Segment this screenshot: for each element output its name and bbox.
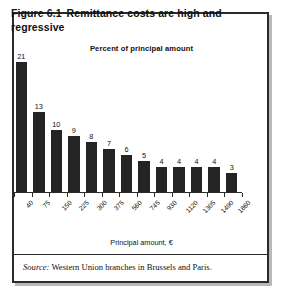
bar-group: 8 xyxy=(84,62,102,192)
bar xyxy=(208,167,220,192)
source-label: Source: xyxy=(23,262,49,272)
x-axis-tick xyxy=(84,193,85,197)
bar-value-label: 5 xyxy=(137,152,152,160)
x-axis-tick xyxy=(172,193,173,197)
bar-value-label: 4 xyxy=(207,158,222,166)
bar-value-label: 3 xyxy=(224,164,239,172)
bar-value-label: 4 xyxy=(189,158,204,166)
bar xyxy=(103,149,115,192)
x-axis-tick xyxy=(32,193,33,197)
bar xyxy=(156,167,168,192)
source-divider xyxy=(12,254,269,255)
bar-group: 4 xyxy=(154,62,172,192)
x-axis-tick xyxy=(207,193,208,197)
bar-value-label: 6 xyxy=(119,146,134,154)
bar xyxy=(68,136,80,192)
x-axis-title: Principal amount, € xyxy=(0,238,283,247)
bar-value-label: 13 xyxy=(32,103,47,111)
x-axis-tick xyxy=(189,193,190,197)
figure-title: Figure 6.1Remittance costs are high and … xyxy=(11,7,243,34)
bar-value-label: 7 xyxy=(102,140,117,148)
x-axis-tick xyxy=(137,193,138,197)
bar-group: 13 xyxy=(32,62,50,192)
bar-group: 10 xyxy=(49,62,67,192)
bar xyxy=(33,112,45,192)
source-text: Western Union branches in Brussels and P… xyxy=(51,262,211,272)
bar xyxy=(173,167,185,192)
bar xyxy=(226,173,238,192)
x-axis-tick xyxy=(224,193,225,197)
chart-subtitle: Percent of principal amount xyxy=(0,44,283,53)
bar-group: 7 xyxy=(102,62,120,192)
bar xyxy=(16,62,28,192)
bar xyxy=(121,155,133,192)
bar-group: 21 xyxy=(14,62,32,192)
bar xyxy=(51,130,63,192)
bar-group: 6 xyxy=(119,62,137,192)
bar-value-label: 4 xyxy=(154,158,169,166)
chart-plot-area: 2113109876544443 xyxy=(14,62,242,192)
bar-group: 3 xyxy=(224,62,242,192)
x-axis-tick xyxy=(119,193,120,197)
bar-group: 5 xyxy=(137,62,155,192)
x-axis-tick xyxy=(67,193,68,197)
bar-value-label: 4 xyxy=(172,158,187,166)
bar-value-label: 21 xyxy=(14,53,29,61)
source-note: Source: Western Union branches in Brusse… xyxy=(23,262,263,273)
bar xyxy=(138,161,150,192)
bar-value-label: 10 xyxy=(49,121,64,129)
bar-group: 4 xyxy=(189,62,207,192)
bar-group: 9 xyxy=(67,62,85,192)
x-axis-tick xyxy=(102,193,103,197)
x-axis-tick xyxy=(242,193,243,197)
x-axis-tick xyxy=(49,193,50,197)
bar-value-label: 9 xyxy=(67,127,82,135)
bar-group: 4 xyxy=(172,62,190,192)
bar-group: 4 xyxy=(207,62,225,192)
bar-value-label: 8 xyxy=(84,133,99,141)
x-axis-tick xyxy=(154,193,155,197)
bar xyxy=(86,142,98,192)
x-axis-tick xyxy=(14,193,15,197)
bar xyxy=(191,167,203,192)
figure-number: Figure 6.1 xyxy=(11,7,62,19)
